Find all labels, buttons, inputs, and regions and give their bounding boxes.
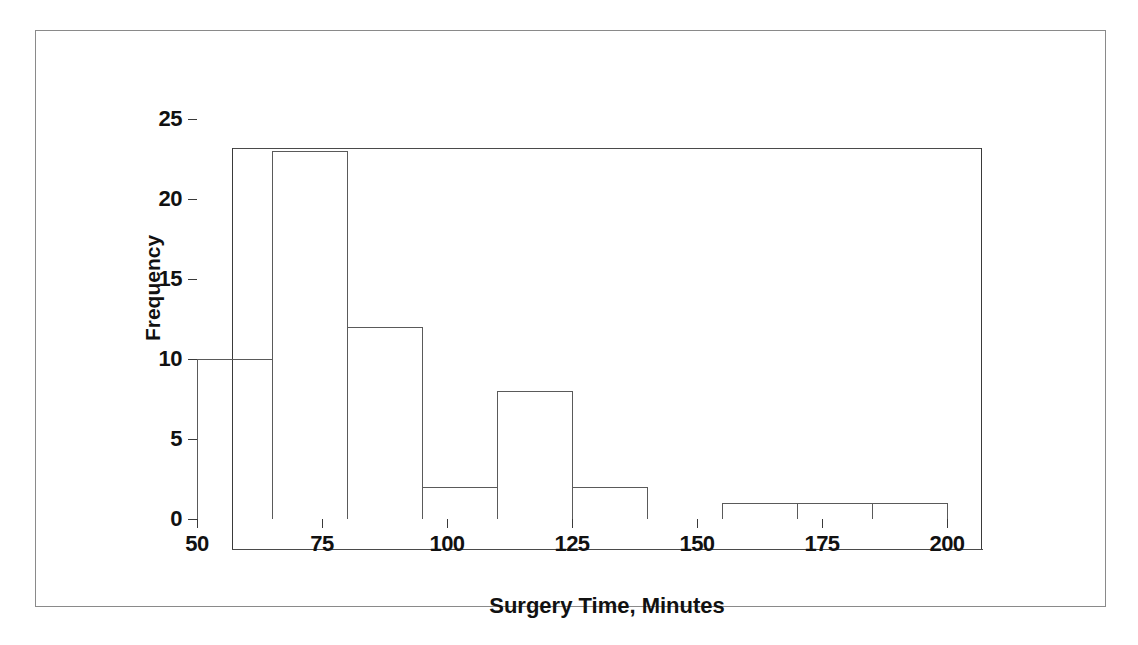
x-tick-label: 200 [912,533,982,555]
x-tick-label: 150 [662,533,732,555]
histogram-bar [347,327,423,519]
histogram-bar [497,391,573,519]
x-tick-label: 75 [287,533,357,555]
y-tick-mark [188,279,197,280]
x-tick-label: 125 [537,533,607,555]
x-axis-title: Surgery Time, Minutes [232,593,982,619]
x-tick-mark [947,519,948,528]
histogram-bar [197,359,273,519]
y-tick-label: 20 [132,188,182,210]
y-tick-mark [188,199,197,200]
histogram-bar [272,151,348,519]
y-axis-title: Frequency [141,208,165,368]
x-tick-mark [197,519,198,528]
histogram-bar [572,487,648,519]
y-tick-mark [188,359,197,360]
histogram-bar [797,503,873,519]
chart-page: 0510152025 5075100125150175200 Frequency… [0,0,1138,645]
x-tick-label: 50 [162,533,232,555]
x-tick-mark [447,519,448,528]
y-tick-label: 5 [132,428,182,450]
y-tick-label: 0 [132,508,182,530]
x-tick-mark [697,519,698,528]
x-tick-mark [572,519,573,528]
x-tick-label: 100 [412,533,482,555]
y-tick-label: 25 [132,108,182,130]
histogram-bar [722,503,798,519]
x-tick-label: 175 [787,533,857,555]
histogram-bar [872,503,948,519]
x-tick-mark [822,519,823,528]
plot-right-border [981,148,982,550]
y-tick-mark [188,119,197,120]
y-tick-mark [188,439,197,440]
x-tick-mark [322,519,323,528]
figure-frame: 0510152025 5075100125150175200 Frequency… [35,30,1106,607]
y-tick-mark [188,519,197,520]
plot-top-border [232,148,982,149]
histogram-bar [422,487,498,519]
